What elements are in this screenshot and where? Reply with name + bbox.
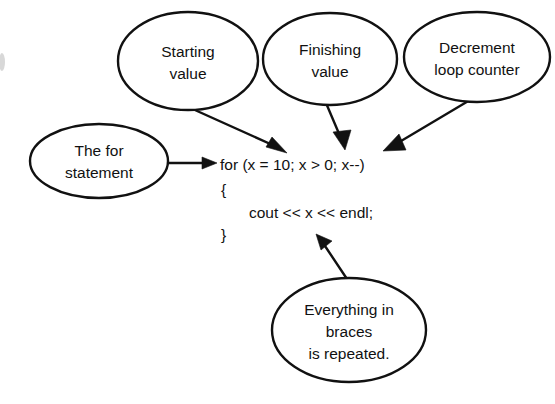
- callout-everything-in-braces-line2: braces: [326, 323, 373, 340]
- callout-starting-value-line1: Starting: [161, 43, 214, 60]
- callout-finishing-value-line2: value: [311, 63, 348, 80]
- code-line-cout: cout << x << endl;: [249, 204, 373, 221]
- diagram-canvas: Starting value Finishing value Decrement…: [0, 0, 555, 404]
- callout-the-for-statement-line1: The for: [74, 142, 123, 159]
- callout-decrement-loop-counter-line2: loop counter: [434, 61, 519, 78]
- arrow-finishing-value-to-code: [326, 103, 351, 150]
- arrow-braces-to-code: [316, 234, 349, 282]
- callout-decrement-loop-counter[interactable]: Decrement loop counter: [404, 12, 550, 102]
- code-line-open-brace: {: [221, 181, 226, 198]
- arrow-starting-value-to-code: [186, 106, 287, 153]
- callout-everything-in-braces-line1: Everything in: [304, 301, 394, 318]
- callout-everything-in-braces[interactable]: Everything in braces is repeated.: [272, 278, 426, 382]
- callout-finishing-value[interactable]: Finishing value: [263, 13, 397, 105]
- callout-everything-in-braces-line3: is repeated.: [309, 345, 390, 362]
- for-loop-annotated-diagram: Starting value Finishing value Decrement…: [0, 0, 555, 404]
- callout-the-for-statement[interactable]: The for statement: [30, 124, 168, 198]
- callout-the-for-statement-ellipse[interactable]: [30, 124, 168, 198]
- code-block: for (x = 10; x > 0; x--) { cout << x << …: [220, 156, 373, 243]
- callout-decrement-loop-counter-line1: Decrement: [439, 39, 515, 56]
- arrow-decrement-to-code: [383, 100, 470, 151]
- callout-finishing-value-ellipse[interactable]: [263, 13, 397, 105]
- arrow-for-statement-to-code: [168, 157, 217, 169]
- code-line-close-brace: }: [221, 226, 226, 243]
- callout-finishing-value-line1: Finishing: [299, 41, 361, 58]
- callout-decrement-loop-counter-ellipse[interactable]: [404, 12, 550, 102]
- callout-starting-value-line2: value: [169, 65, 206, 82]
- callout-starting-value-ellipse[interactable]: [118, 12, 258, 110]
- scan-artifact-speck: [0, 53, 5, 71]
- callout-starting-value[interactable]: Starting value: [118, 12, 258, 110]
- callout-the-for-statement-line2: statement: [65, 164, 134, 181]
- code-line-for-statement: for (x = 10; x > 0; x--): [220, 156, 365, 173]
